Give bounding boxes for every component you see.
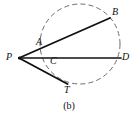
point-label-a: A: [36, 37, 42, 47]
figure-caption: (b): [0, 100, 138, 111]
secant-pab-line: [19, 18, 110, 58]
point-label-b: B: [112, 7, 118, 17]
point-p-marker: [18, 56, 21, 59]
tangent-pt-line: [19, 58, 68, 84]
point-label-c: C: [50, 56, 57, 66]
geometry-figure: P A B C D T (b): [0, 0, 138, 120]
point-label-t: T: [64, 85, 70, 95]
point-label-p: P: [6, 52, 12, 62]
point-label-d: D: [122, 52, 129, 62]
